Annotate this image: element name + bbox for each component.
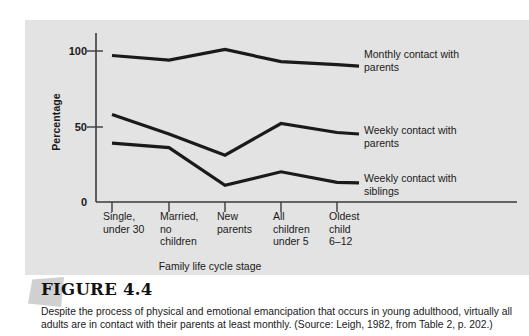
x-tick-label-new-parents: New parents	[217, 210, 252, 235]
figure-caption-text: Despite the process of physical and emot…	[41, 305, 528, 332]
x-tick-label-single-under-30: Single, under 30	[103, 210, 144, 235]
figure-page: Percentage 100 50 0 Single, under 30 Mar…	[0, 0, 529, 336]
x-tick-label-all-children-under-5: All children under 5	[273, 210, 310, 248]
y-tick-label-100: 100	[47, 45, 87, 57]
series-line-monthly-contact-with-parents	[112, 50, 359, 67]
legend-label-weekly-contact-with-siblings: Weekly contact with siblings	[364, 172, 457, 197]
legend-label-monthly-contact-with-parents: Monthly contact with parents	[364, 48, 459, 73]
x-tick-label-oldest-child-6-12: Oldest child 6–12	[329, 210, 359, 248]
x-axis-title: Family life cycle stage	[25, 260, 395, 272]
figure-title: FIGURE 4.4	[41, 280, 153, 299]
series-line-weekly-contact-with-parents	[112, 114, 359, 155]
chart-panel: Percentage 100 50 0 Single, under 30 Mar…	[25, 20, 529, 275]
figure-caption-block: FIGURE 4.4 Despite the process of physic…	[25, 275, 529, 336]
x-tick-label-married-no-children: Married, no children	[160, 210, 199, 248]
y-tick-label-0: 0	[47, 196, 87, 208]
y-tick-label-50: 50	[47, 121, 87, 133]
legend-label-weekly-contact-with-parents: Weekly contact with parents	[364, 124, 457, 149]
